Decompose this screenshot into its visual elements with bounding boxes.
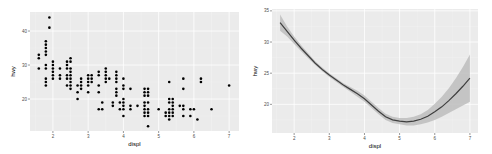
data-point (182, 108, 185, 111)
data-point (90, 74, 93, 77)
data-point (122, 108, 125, 111)
x-tick-label: 5 (398, 136, 401, 141)
data-point (87, 91, 90, 94)
data-point (196, 118, 199, 121)
data-point (69, 77, 72, 80)
data-point (143, 105, 146, 108)
data-point (45, 77, 48, 80)
x-axis: 234567 (293, 133, 472, 141)
data-point (66, 74, 69, 77)
data-point (45, 81, 48, 84)
x-tick-label: 4 (363, 136, 366, 141)
data-point (147, 108, 150, 111)
data-point (38, 57, 41, 60)
data-point (104, 77, 107, 80)
data-point (115, 94, 118, 97)
data-point (48, 16, 51, 19)
x-tick-label: 6 (193, 134, 196, 139)
data-point (52, 77, 55, 80)
data-point (164, 115, 167, 118)
data-point (87, 84, 90, 87)
data-point (104, 67, 107, 70)
data-point (228, 84, 231, 87)
data-point (147, 94, 150, 97)
data-point (80, 88, 83, 91)
data-point (129, 105, 132, 108)
data-point (122, 115, 125, 118)
data-point (200, 81, 203, 84)
data-point (147, 101, 150, 104)
data-point (45, 47, 48, 50)
data-point (171, 111, 174, 114)
data-point (52, 60, 55, 63)
data-point (69, 88, 72, 91)
data-point (115, 77, 118, 80)
data-point (164, 111, 167, 114)
data-point (69, 60, 72, 63)
data-point (119, 101, 122, 104)
data-point (59, 74, 62, 77)
data-point (101, 101, 104, 104)
x-axis-title: displ (369, 143, 381, 149)
data-point (171, 115, 174, 118)
data-point (129, 88, 132, 91)
data-point (115, 88, 118, 91)
data-point (122, 98, 125, 101)
x-tick-label: 7 (469, 136, 472, 141)
data-point (52, 67, 55, 70)
data-point (147, 91, 150, 94)
data-point (136, 105, 139, 108)
data-point (45, 84, 48, 87)
data-point (168, 118, 171, 121)
data-point (48, 26, 51, 29)
data-point (189, 108, 192, 111)
data-point (171, 108, 174, 111)
x-tick-label: 3 (87, 134, 90, 139)
data-point (182, 77, 185, 80)
data-point (97, 91, 100, 94)
data-point (101, 108, 104, 111)
data-point (66, 64, 69, 67)
data-point (59, 67, 62, 70)
data-point (87, 81, 90, 84)
data-point (189, 115, 192, 118)
data-point (38, 67, 41, 70)
data-point (147, 88, 150, 91)
data-point (193, 108, 196, 111)
data-point (66, 84, 69, 87)
data-point (76, 84, 79, 87)
data-point (97, 71, 100, 74)
smooth-plot: 234567 20253035 displ hwy (252, 8, 478, 149)
data-point (122, 88, 125, 91)
data-point (69, 84, 72, 87)
data-point (115, 91, 118, 94)
data-point (178, 105, 181, 108)
data-point (66, 77, 69, 80)
y-axis: 20253035 (264, 8, 272, 106)
data-point (168, 111, 171, 114)
x-axis: 234567 (52, 131, 231, 139)
data-point (122, 77, 125, 80)
data-point (76, 91, 79, 94)
data-point (104, 74, 107, 77)
data-point (52, 64, 55, 67)
y-axis-title: hwy (10, 66, 16, 77)
scatter-plot: 234567 203040 displ hwy (10, 12, 239, 147)
data-point (45, 64, 48, 67)
data-point (143, 115, 146, 118)
data-point (171, 101, 174, 104)
data-point (69, 57, 72, 60)
data-point (168, 101, 171, 104)
data-point (147, 115, 150, 118)
data-point (147, 111, 150, 114)
data-point (168, 115, 171, 118)
data-point (45, 67, 48, 70)
data-point (168, 98, 171, 101)
data-point (119, 108, 122, 111)
data-point (143, 108, 146, 111)
data-point (45, 43, 48, 46)
data-point (122, 84, 125, 87)
data-point (104, 81, 107, 84)
x-tick-label: 7 (228, 134, 231, 139)
data-point (143, 111, 146, 114)
